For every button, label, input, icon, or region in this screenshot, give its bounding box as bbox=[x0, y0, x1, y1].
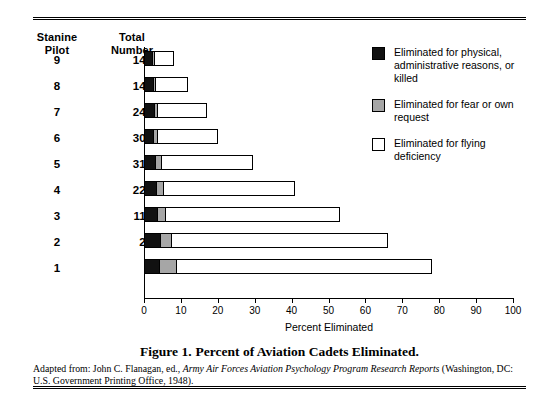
bar-segment-flying bbox=[158, 130, 217, 143]
legend-item: Eliminated for flying deficiency bbox=[372, 137, 532, 163]
x-tick-100 bbox=[513, 299, 514, 303]
table-row: 1904 bbox=[0, 257, 542, 283]
bar-stanine-8 bbox=[144, 77, 188, 92]
bar-segment-physical bbox=[145, 156, 155, 169]
bar-segment-flying bbox=[164, 182, 294, 195]
bar-segment-flying bbox=[155, 52, 173, 65]
legend-swatch-black bbox=[372, 47, 385, 60]
x-axis-label: Percent Eliminated bbox=[144, 321, 514, 333]
figure-caption: Figure 1.Percent of Aviation Cadets Elim… bbox=[33, 344, 526, 360]
legend-swatch-gray bbox=[372, 99, 385, 112]
stanine-value: 8 bbox=[26, 80, 88, 92]
bar-segment-physical bbox=[145, 260, 159, 273]
figure-title: Percent of Aviation Cadets Eliminated. bbox=[196, 344, 419, 359]
table-row: 422,827 bbox=[0, 179, 542, 205]
x-tick-10 bbox=[181, 299, 182, 303]
stanine-value: 1 bbox=[26, 262, 88, 274]
column-header-total-line1: Total bbox=[96, 31, 168, 44]
x-tick-80 bbox=[439, 299, 440, 303]
bar-stanine-3 bbox=[144, 207, 340, 222]
source-italic-title: Army Air Forces Aviation Psychology Prog… bbox=[183, 363, 440, 374]
stanine-value: 3 bbox=[26, 210, 88, 222]
x-tick-30 bbox=[255, 299, 256, 303]
bar-segment-physical bbox=[145, 130, 153, 143]
legend-item: Eliminated for fear or own request bbox=[372, 98, 532, 124]
x-tick-50 bbox=[329, 299, 330, 303]
x-tick-label-100: 100 bbox=[498, 305, 528, 316]
x-tick-label-40: 40 bbox=[277, 305, 307, 316]
stanine-value: 9 bbox=[26, 54, 88, 66]
column-header-stanine-line1: Stanine bbox=[26, 31, 88, 44]
bar-stanine-5 bbox=[144, 155, 253, 170]
bar-segment-fear bbox=[159, 260, 177, 273]
table-row: 22,239 bbox=[0, 231, 542, 257]
stanine-value: 7 bbox=[26, 106, 88, 118]
legend-label: Eliminated for physical, administrative … bbox=[394, 46, 532, 85]
bar-segment-physical bbox=[145, 52, 152, 65]
x-tick-40 bbox=[292, 299, 293, 303]
stanine-value: 2 bbox=[26, 236, 88, 248]
bar-stanine-4 bbox=[144, 181, 295, 196]
bar-stanine-9 bbox=[144, 51, 174, 66]
figure-container: Stanine Pilot Total Number 0102030405060… bbox=[0, 0, 542, 393]
x-tick-label-80: 80 bbox=[424, 305, 454, 316]
figure-number: Figure 1. bbox=[140, 344, 192, 359]
bar-segment-fear bbox=[157, 208, 166, 221]
bar-stanine-7 bbox=[144, 103, 207, 118]
stanine-value: 4 bbox=[26, 184, 88, 196]
table-row: 311,471 bbox=[0, 205, 542, 231]
top-rule bbox=[33, 17, 526, 20]
stanine-value: 5 bbox=[26, 158, 88, 170]
bar-segment-physical bbox=[145, 182, 156, 195]
x-tick-90 bbox=[476, 299, 477, 303]
x-tick-label-90: 90 bbox=[461, 305, 491, 316]
x-tick-label-30: 30 bbox=[240, 305, 270, 316]
x-tick-label-70: 70 bbox=[387, 305, 417, 316]
legend-item: Eliminated for physical, administrative … bbox=[372, 46, 532, 85]
legend-label: Eliminated for flying deficiency bbox=[394, 137, 532, 163]
x-tick-label-20: 20 bbox=[203, 305, 233, 316]
bar-segment-flying bbox=[172, 234, 387, 247]
x-tick-0 bbox=[144, 299, 145, 303]
bar-segment-flying bbox=[158, 104, 206, 117]
bar-segment-flying bbox=[156, 78, 187, 91]
bar-stanine-6 bbox=[144, 129, 218, 144]
bar-segment-physical bbox=[145, 78, 153, 91]
bar-segment-physical bbox=[145, 234, 160, 247]
chart-legend: Eliminated for physical, administrative … bbox=[372, 46, 532, 176]
bottom-rule bbox=[33, 386, 526, 389]
bar-segment-flying bbox=[166, 208, 338, 221]
legend-label: Eliminated for fear or own request bbox=[394, 98, 532, 124]
stanine-value: 6 bbox=[26, 132, 88, 144]
bar-segment-flying bbox=[162, 156, 251, 169]
legend-swatch-white bbox=[372, 138, 385, 151]
bar-segment-fear bbox=[156, 182, 164, 195]
x-tick-70 bbox=[402, 299, 403, 303]
figure-source-note: Adapted from: John C. Flanagan, ed., Arm… bbox=[33, 363, 526, 386]
x-tick-label-0: 0 bbox=[129, 305, 159, 316]
bar-segment-fear bbox=[160, 234, 171, 247]
bar-segment-physical bbox=[145, 208, 157, 221]
bar-stanine-1 bbox=[144, 259, 432, 274]
x-tick-label-10: 10 bbox=[166, 305, 196, 316]
bar-stanine-2 bbox=[144, 233, 388, 248]
x-tick-label-60: 60 bbox=[350, 305, 380, 316]
x-tick-60 bbox=[365, 299, 366, 303]
source-prefix: Adapted from: John C. Flanagan, ed., bbox=[33, 363, 183, 374]
bar-segment-physical bbox=[145, 104, 154, 117]
bar-segment-flying bbox=[177, 260, 431, 273]
bar-segment-fear bbox=[155, 156, 162, 169]
x-tick-label-50: 50 bbox=[314, 305, 344, 316]
x-tick-20 bbox=[218, 299, 219, 303]
